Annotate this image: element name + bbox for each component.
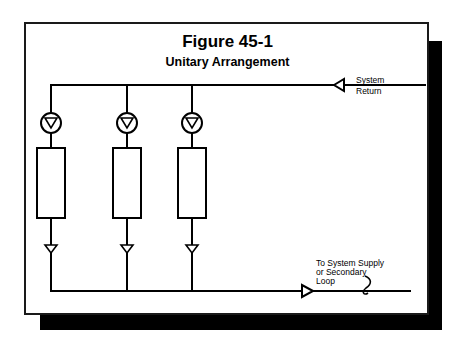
system-return-label-line1: System xyxy=(356,76,384,85)
system-return-label-line2: Return xyxy=(356,87,384,96)
check-valve-2-icon xyxy=(121,245,133,253)
supply-flow-arrow-icon xyxy=(302,285,313,297)
system-supply-label: To System Supply or Secondary Loop xyxy=(316,259,384,286)
branch-3 xyxy=(178,85,206,291)
piping-diagram xyxy=(0,0,455,345)
return-flow-arrow-icon xyxy=(334,79,344,91)
coil-3 xyxy=(178,148,206,218)
coil-2 xyxy=(113,148,141,218)
branch-1 xyxy=(37,85,65,291)
branch-2 xyxy=(113,85,141,291)
check-valve-3-icon xyxy=(186,245,198,253)
coil-1 xyxy=(37,148,65,218)
system-return-label: System Return xyxy=(356,76,384,96)
check-valve-1-icon xyxy=(45,245,57,253)
supply-label-line3: Loop xyxy=(316,277,384,286)
